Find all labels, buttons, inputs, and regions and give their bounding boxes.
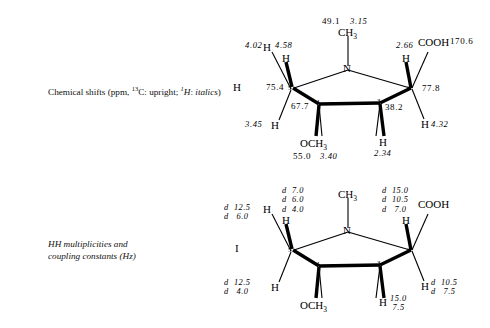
ring-number-c3-bottom: 3 (377, 259, 381, 267)
hydrogen-c5-up-bottom: H (282, 214, 290, 226)
coupling-h-c2-right: d 10.5 d 7.5 (431, 278, 458, 297)
ring-number-c2-bottom: 2 (407, 246, 411, 254)
ring-number-c5-bottom: 5 (288, 246, 292, 254)
substituent-carboxyl-bottom: COOH (418, 198, 449, 210)
atom-n-bottom: N (343, 224, 351, 236)
figure-canvas: Chemical shifts (ppm, 13C: upright; 1H: … (0, 0, 490, 328)
substituent-n-methyl-bottom: CH3 (338, 188, 357, 203)
coupling-h-c5-down: d 12.5 d 4.0 (224, 278, 251, 297)
coupling-h-c3-down: 15.0 7.5 (390, 294, 407, 313)
coupling-h-c2-up: d 15.0 d 10.5 d 7.0 (382, 186, 409, 214)
hydrogen-c3-down-bottom: H (379, 296, 387, 308)
coupling-h-c5-up: d 7.0 d 6.0 d 4.0 (282, 186, 304, 214)
hydrogen-c5-left-bottom: H (263, 203, 271, 215)
hydrogen-c2-right-bottom: H (421, 280, 429, 292)
hydrogen-c5-down-bottom: H (271, 281, 279, 293)
coupling-h-c5-left: d 12.5 d 6.0 (224, 203, 251, 222)
ring-number-c4-bottom: 4 (316, 260, 320, 268)
hydrogen-c2-up-bottom: H (402, 214, 410, 226)
substituent-o-methyl-bottom: OCH3 (300, 299, 327, 314)
